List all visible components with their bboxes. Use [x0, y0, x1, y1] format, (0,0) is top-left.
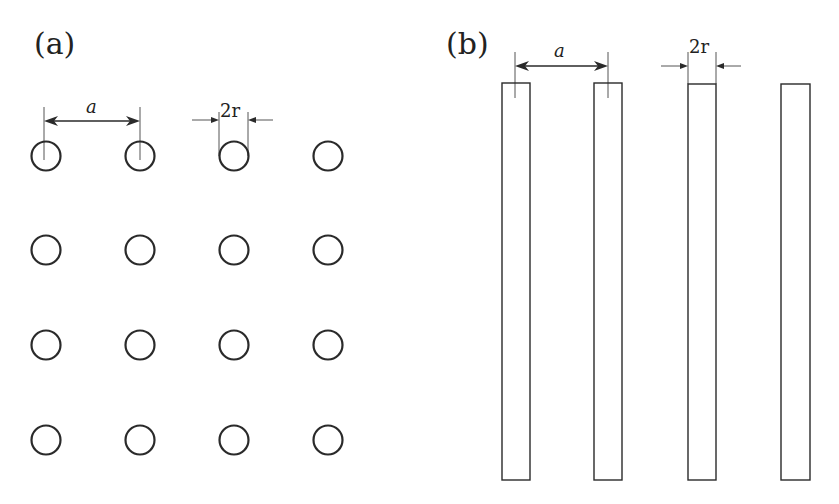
rod-circle [126, 236, 155, 265]
panel-b-width-label: 2r [689, 36, 709, 57]
rod-circle [220, 426, 249, 455]
arrow-left-icon [716, 63, 724, 69]
width-text: 2r [689, 36, 709, 57]
arrow-right-icon [211, 117, 219, 123]
rod-circle [32, 331, 61, 360]
rod-circle [314, 142, 343, 171]
arrow-left-icon [248, 117, 256, 123]
panel-a-label: (a) [34, 26, 75, 61]
rod-circle [220, 236, 249, 265]
diameter-text: 2r [220, 100, 240, 121]
rod-rect [688, 84, 716, 480]
rod-rect [502, 83, 530, 480]
rod-circle [220, 331, 249, 360]
figure-canvas [0, 0, 839, 504]
rod-circle [32, 142, 61, 171]
rod-circle [32, 236, 61, 265]
panel-a-lattice [32, 142, 343, 455]
panel-a-spacing-label: a [86, 96, 97, 117]
rod-circle [314, 331, 343, 360]
rod-circle [126, 331, 155, 360]
rod-circle [314, 426, 343, 455]
rod-circle [220, 142, 249, 171]
panel-b-spacing-label: a [554, 40, 565, 61]
rod-rect [594, 83, 622, 480]
arrow-right-icon [680, 63, 688, 69]
rod-circle [126, 426, 155, 455]
rod-circle [314, 236, 343, 265]
rod-circle [32, 426, 61, 455]
rod-rect [781, 84, 810, 480]
panel-b-rods [502, 83, 810, 480]
panel-b-label: (b) [446, 26, 489, 61]
panel-a-diameter-label: 2r [220, 100, 240, 121]
